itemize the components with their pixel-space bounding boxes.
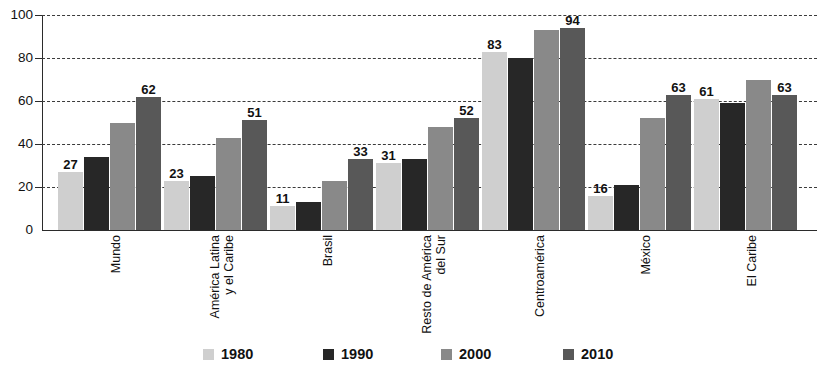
bar-value-label: 94 bbox=[565, 14, 579, 27]
bar-alc-2000[interactable] bbox=[216, 138, 241, 230]
bar-value-label: 83 bbox=[487, 38, 501, 51]
bar-alc-1980[interactable]: 23 bbox=[164, 181, 189, 230]
bar-brasil-2010[interactable]: 33 bbox=[348, 159, 373, 230]
bar-brasil-2000[interactable] bbox=[322, 181, 347, 230]
bar-mexico-1980[interactable]: 16 bbox=[588, 196, 613, 230]
y-tick-label-80: 80 bbox=[3, 51, 33, 65]
bar-group-centroamerica: 83 94 bbox=[482, 15, 586, 230]
bar-value-label: 27 bbox=[63, 158, 77, 171]
bar-mundo-1980[interactable]: 27 bbox=[58, 172, 83, 230]
y-tick-label-40: 40 bbox=[3, 137, 33, 151]
bar-mexico-1990[interactable] bbox=[614, 185, 639, 230]
bar-value-label: 52 bbox=[459, 104, 473, 117]
bar-value-label: 31 bbox=[381, 149, 395, 162]
legend-label: 2000 bbox=[459, 347, 491, 362]
legend-swatch-icon bbox=[323, 349, 334, 360]
bar-centroamerica-2010[interactable]: 94 bbox=[560, 28, 585, 230]
bar-elcaribe-1980[interactable]: 61 bbox=[694, 99, 719, 230]
bar-value-label: 11 bbox=[276, 192, 290, 205]
bar-value-label: 61 bbox=[699, 85, 713, 98]
bar-mexico-2010[interactable]: 63 bbox=[666, 95, 691, 230]
bar-centroamerica-2000[interactable] bbox=[534, 30, 559, 230]
legend-item-1990[interactable]: 1990 bbox=[323, 344, 373, 364]
bar-value-label: 23 bbox=[169, 167, 183, 180]
legend-item-2000[interactable]: 2000 bbox=[441, 344, 491, 364]
x-label-el-caribe: El Caribe bbox=[746, 235, 760, 286]
chart-legend: 1980 1990 2000 2010 bbox=[0, 344, 819, 369]
x-label-america-latina-line2: y el Caribe bbox=[223, 235, 237, 295]
y-tick-label-100: 100 bbox=[3, 8, 33, 22]
bar-alc-1990[interactable] bbox=[190, 176, 215, 230]
bar-mundo-2010[interactable]: 62 bbox=[136, 97, 161, 230]
bar-elcaribe-2000[interactable] bbox=[746, 80, 771, 231]
x-label-mundo: Mundo bbox=[110, 235, 124, 273]
bar-centroamerica-1980[interactable]: 83 bbox=[482, 52, 507, 230]
bar-group-mundo: 27 62 bbox=[58, 15, 162, 230]
x-axis-category-labels: Mundo América Latina y el Caribe Brasil … bbox=[42, 231, 817, 336]
bar-brasil-1980[interactable]: 11 bbox=[270, 206, 295, 230]
bar-brasil-1990[interactable] bbox=[296, 202, 321, 230]
bar-group-brasil: 11 33 bbox=[270, 15, 374, 230]
x-label-america-latina-line1: América Latina bbox=[209, 235, 223, 318]
bar-rads-1990[interactable] bbox=[402, 159, 427, 230]
x-label-mexico: México bbox=[640, 235, 654, 275]
bar-value-label: 33 bbox=[353, 145, 367, 158]
legend-label: 1980 bbox=[221, 347, 253, 362]
plot-area: 27 62 23 51 11 3 bbox=[42, 15, 817, 230]
bar-centroamerica-1990[interactable] bbox=[508, 58, 533, 230]
bar-mundo-2000[interactable] bbox=[110, 123, 135, 231]
legend-label: 1990 bbox=[341, 347, 373, 362]
legend-swatch-icon bbox=[563, 349, 574, 360]
bar-value-label: 62 bbox=[141, 83, 155, 96]
bar-group-el-caribe: 61 63 bbox=[694, 15, 798, 230]
bar-value-label: 51 bbox=[247, 106, 261, 119]
y-tick-label-0: 0 bbox=[3, 223, 33, 237]
bar-alc-2010[interactable]: 51 bbox=[242, 120, 267, 230]
bar-group-mexico: 16 63 bbox=[588, 15, 692, 230]
chart-page: 100 80 60 40 20 0 27 62 bbox=[0, 0, 819, 369]
legend-item-2010[interactable]: 2010 bbox=[563, 344, 613, 364]
y-axis-tick-labels: 100 80 60 40 20 0 bbox=[0, 0, 33, 369]
bar-mexico-2000[interactable] bbox=[640, 118, 665, 230]
legend-swatch-icon bbox=[203, 349, 214, 360]
bar-elcaribe-2010[interactable]: 63 bbox=[772, 95, 797, 230]
x-label-resto-sur-line1: Resto de América bbox=[421, 235, 435, 334]
x-label-resto-sur-line2: del Sur bbox=[435, 235, 449, 275]
x-label-centroamerica: Centroamérica bbox=[534, 235, 548, 317]
x-label-brasil: Brasil bbox=[322, 235, 336, 266]
bar-value-label: 16 bbox=[593, 182, 607, 195]
legend-swatch-icon bbox=[441, 349, 452, 360]
y-tick-label-20: 20 bbox=[3, 180, 33, 194]
bar-rads-2000[interactable] bbox=[428, 127, 453, 230]
bar-group-resto-de-america-del-sur: 31 52 bbox=[376, 15, 480, 230]
cropped-title-remnant bbox=[0, 0, 819, 3]
legend-item-1980[interactable]: 1980 bbox=[203, 344, 253, 364]
y-tick-label-60: 60 bbox=[3, 94, 33, 108]
bar-rads-1980[interactable]: 31 bbox=[376, 163, 401, 230]
bar-value-label: 63 bbox=[671, 81, 685, 94]
bar-rads-2010[interactable]: 52 bbox=[454, 118, 479, 230]
bar-mundo-1990[interactable] bbox=[84, 157, 109, 230]
bar-value-label: 63 bbox=[777, 81, 791, 94]
bar-group-america-latina-y-el-caribe: 23 51 bbox=[164, 15, 268, 230]
bar-elcaribe-1990[interactable] bbox=[720, 103, 745, 230]
legend-label: 2010 bbox=[581, 347, 613, 362]
